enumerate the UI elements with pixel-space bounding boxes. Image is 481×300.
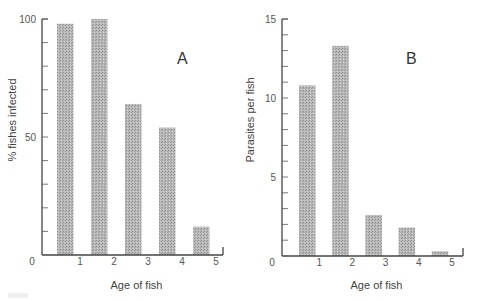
chart-b-svg: 51015012345Age of fishParasites per fish… [240,0,481,300]
bar-age-1-2 [332,46,349,256]
chart-panel-b: 51015012345Age of fishParasites per fish… [240,0,480,300]
bar-age-4-5 [193,227,210,255]
y-axis-title: % fishes infected [6,78,18,161]
origin-label: 0 [269,257,275,268]
cropped-caption-remnant [8,293,28,298]
x-tick-label: 1 [77,256,83,267]
x-axis-title: Age of fish [351,279,403,291]
bar-age-2-3 [365,215,382,256]
x-tick-label: 5 [213,256,219,267]
x-tick-label: 2 [111,256,117,267]
bar-age-4-5 [432,251,449,256]
bar-age-3-4 [399,228,416,256]
x-tick-label: 2 [350,257,356,268]
x-tick-label: 4 [179,256,185,267]
y-tick-label: 15 [265,14,277,25]
x-tick-label: 1 [316,257,322,268]
bar-age-0-1 [299,85,316,256]
panel-label: B [406,50,417,67]
bar-age-2-3 [125,104,142,255]
y-tick-label: 10 [265,93,277,104]
x-axis-title: Age of fish [111,279,163,291]
bar-age-0-1 [57,24,74,255]
x-tick-label: 5 [449,257,455,268]
x-tick-label: 3 [145,256,151,267]
x-tick-label: 3 [383,257,389,268]
chart-a-svg: 50100012345Age of fish% fishes infectedA [0,0,240,300]
y-tick-label: 50 [25,132,37,143]
panel-label: A [177,50,188,67]
origin-label: 0 [29,256,35,267]
y-tick-label: 5 [270,172,276,183]
chart-panel-a: 50100012345Age of fish% fishes infectedA [0,0,240,300]
bar-age-3-4 [159,128,176,255]
bar-age-1-2 [91,19,108,255]
x-tick-label: 4 [416,257,422,268]
y-axis-title: Parasites per fish [244,78,256,163]
y-tick-label: 100 [19,14,36,25]
